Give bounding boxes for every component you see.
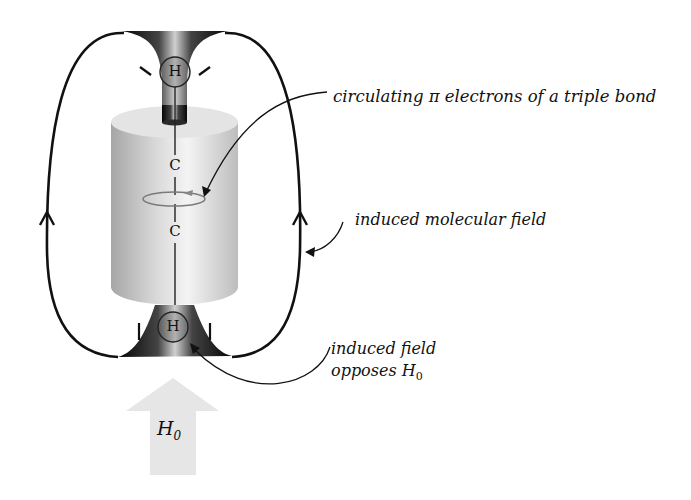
applied-field-subscript: 0 <box>174 429 182 443</box>
label-induced-molecular-field: induced molecular field <box>355 210 546 229</box>
atom-carbon-1: C <box>165 156 185 174</box>
label-induced-field-opposes: induced field opposes H0 <box>331 338 436 388</box>
diagram-canvas <box>0 0 691 500</box>
label-circulating-pi-electrons: circulating π electrons of a triple bond <box>333 87 656 106</box>
applied-field-label: H0 <box>157 417 181 443</box>
applied-field-symbol: H <box>157 417 174 439</box>
label-opposes-subscript: 0 <box>416 370 423 383</box>
atom-carbon-2: C <box>165 222 185 240</box>
label-opposes-text: opposes H <box>331 361 416 380</box>
atom-top-hydrogen: H <box>165 62 185 80</box>
label-induced-field-line2: opposes H0 <box>331 360 436 388</box>
label-induced-field-line1: induced field <box>331 338 436 360</box>
atom-bottom-hydrogen: H <box>163 317 183 335</box>
